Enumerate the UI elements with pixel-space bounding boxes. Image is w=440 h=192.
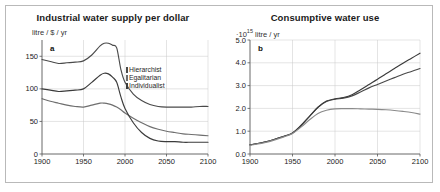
y-tick-label: 4.0 (224, 58, 246, 67)
legend-swatch-icon (126, 67, 128, 73)
x-tick-label: 2050 (364, 157, 392, 166)
x-tick-label: 2050 (153, 157, 181, 166)
x-tick-label: 2100 (406, 157, 434, 166)
panel-a-svg (42, 40, 208, 154)
x-tick-label: 1900 (236, 157, 264, 166)
x-tick-label: 1950 (279, 157, 307, 166)
unit-tail: litre / yr (253, 30, 280, 39)
y-tick-label: 2.0 (224, 104, 246, 113)
y-tick-label: 3.0 (224, 81, 246, 90)
y-tick-label: 150 (16, 52, 38, 61)
x-tick-label: 1900 (28, 157, 56, 166)
panel-a-title: Industrial water supply per dollar (6, 12, 220, 23)
panel-b-plot-area (250, 40, 420, 154)
legend-label-individualist: Individualist (129, 82, 165, 90)
figure-frame: Industrial water supply per dollar litre… (5, 5, 433, 183)
panel-b-svg (250, 40, 420, 154)
panel-b: Consumptive water use ·1015 litre / yr b… (218, 6, 432, 182)
legend-label-egalitarian: Egalitarian (129, 74, 161, 82)
panel-a-legend: Hierarchist Egalitarian Individualist (126, 66, 165, 90)
legend-label-hierarchist: Hierarchist (129, 66, 161, 74)
x-tick-label: 2000 (111, 157, 139, 166)
panel-b-title: Consumptive water use (218, 12, 432, 23)
legend-item-individualist: Individualist (126, 82, 165, 90)
legend-item-egalitarian: Egalitarian (126, 74, 165, 82)
legend-swatch-icon (126, 83, 128, 89)
x-tick-label: 2000 (321, 157, 349, 166)
panel-a-plot-area (42, 40, 208, 154)
panel-a-y-axis-unit: litre / $ / yr (32, 28, 67, 37)
legend-swatch-icon (126, 75, 128, 81)
panel-a: Industrial water supply per dollar litre… (6, 6, 220, 182)
x-tick-label: 1950 (70, 157, 98, 166)
y-tick-label: 100 (16, 84, 38, 93)
y-tick-label: 50 (16, 117, 38, 126)
y-tick-label: 1.0 (224, 127, 246, 136)
legend-item-hierarchist: Hierarchist (126, 66, 165, 74)
y-tick-label: 5.0 (224, 36, 246, 45)
